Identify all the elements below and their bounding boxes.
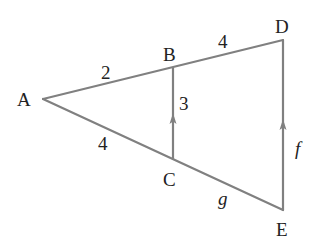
- segment-label-bd: 4: [218, 31, 228, 52]
- vertex-label-e: E: [276, 219, 288, 240]
- segment-label-de: f: [295, 138, 303, 159]
- segment-label-ac: 4: [98, 133, 108, 154]
- vertex-label-b: B: [163, 44, 176, 65]
- segment-label-bc: 3: [179, 93, 189, 114]
- vertex-label-a: A: [17, 89, 31, 110]
- segment-ae: [43, 99, 283, 210]
- vertex-label-c: C: [163, 169, 176, 190]
- triangle-diagram: A B C D E 2 4 4 3 g f: [0, 0, 315, 251]
- segment-label-ab: 2: [101, 62, 111, 83]
- vertex-label-d: D: [275, 16, 289, 37]
- segment-label-ce: g: [218, 188, 228, 209]
